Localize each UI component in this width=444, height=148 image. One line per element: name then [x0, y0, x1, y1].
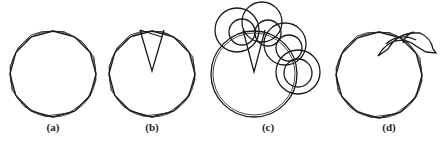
panel-c: (c) [200, 0, 320, 148]
panel-label-a: (a) [33, 121, 73, 133]
figure: (a) (b) (c) [0, 0, 444, 148]
panel-label-b: (b) [132, 121, 172, 133]
panel-d: (d) [320, 0, 444, 148]
panel-label-d: (d) [369, 121, 409, 133]
panel-label-c: (c) [248, 121, 288, 133]
panel-a: (a) [0, 0, 111, 148]
